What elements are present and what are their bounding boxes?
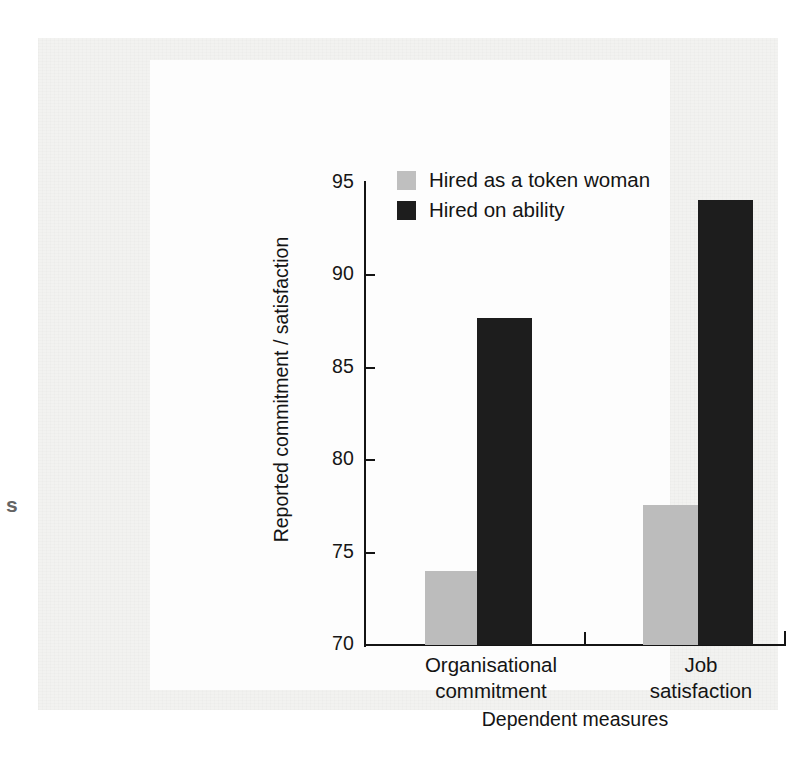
x-axis-title: Dependent measures — [365, 708, 785, 731]
x-axis-category-label-0: Organisationalcommitment — [376, 652, 606, 704]
legend-swatch-ability — [397, 201, 416, 220]
x-axis-category-label-1-line-1: satisfaction — [598, 678, 796, 704]
page-margin-mark: s — [6, 492, 20, 518]
bar-1-0 — [643, 505, 698, 645]
bar-0-1 — [477, 318, 532, 645]
bar-1-1 — [698, 200, 753, 645]
legend-swatch-token — [397, 171, 416, 190]
bars-layer — [150, 183, 796, 645]
chart-legend: Hired as a token womanHired on ability — [397, 165, 650, 225]
x-axis-category-label-0-line-0: Organisational — [376, 652, 606, 678]
legend-item-1: Hired on ability — [397, 195, 650, 225]
legend-item-0: Hired as a token woman — [397, 165, 650, 195]
x-axis-category-label-0-line-1: commitment — [376, 678, 606, 704]
bar-chart-figure: 707580859095 Organisationalcommitment Jo… — [150, 60, 670, 690]
x-axis-category-label-1: Jobsatisfaction — [598, 652, 796, 704]
bar-0-0 — [425, 571, 477, 645]
legend-label-1: Hired on ability — [429, 198, 565, 222]
y-axis-title: Reported commitment / satisfaction — [270, 235, 293, 545]
x-axis-category-label-1-line-0: Job — [598, 652, 796, 678]
legend-label-0: Hired as a token woman — [429, 168, 650, 192]
